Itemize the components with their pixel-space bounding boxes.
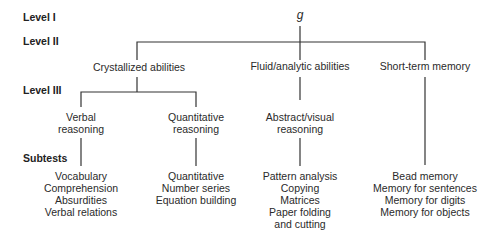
- subtest-item: Comprehension: [44, 182, 118, 194]
- quantitative-reasoning-node: Quantitative reasoning: [168, 111, 224, 135]
- short-term-memory-subtests-list: Bead memory Memory for sentences Memory …: [373, 170, 477, 218]
- subtest-item: Bead memory: [373, 170, 477, 182]
- verbal-reasoning-node: Verbal reasoning: [58, 111, 104, 135]
- abstract-visual-subtests-list: Pattern analysis Copying Matrices Paper …: [263, 170, 338, 230]
- subtest-item: Memory for sentences: [373, 182, 477, 194]
- subtest-item: Pattern analysis: [263, 170, 338, 182]
- fluid-analytic-abilities-node: Fluid/analytic abilities: [250, 60, 349, 72]
- subtest-item: Equation building: [156, 194, 237, 206]
- level-2-label: Level II: [23, 35, 59, 47]
- crystallized-abilities-node: Crystallized abilities: [93, 61, 185, 73]
- subtest-item: and cutting: [263, 218, 338, 230]
- verbal-reasoning-line1: Verbal: [58, 111, 104, 123]
- short-term-memory-node: Short-term memory: [380, 60, 470, 72]
- subtest-item: Memory for digits: [373, 194, 477, 206]
- subtest-item: Absurdities: [44, 194, 118, 206]
- abstract-visual-reasoning-line2: reasoning: [266, 123, 334, 135]
- quantitative-reasoning-line2: reasoning: [168, 123, 224, 135]
- subtest-item: Memory for objects: [373, 206, 477, 218]
- quantitative-subtests-list: Quantitative Number series Equation buil…: [156, 170, 237, 206]
- level-1-label: Level I: [23, 11, 56, 23]
- subtests-label: Subtests: [23, 152, 67, 164]
- g-node: g: [297, 8, 304, 22]
- verbal-subtests-list: Vocabulary Comprehension Absurdities Ver…: [44, 170, 118, 218]
- subtest-item: Verbal relations: [44, 206, 118, 218]
- abstract-visual-reasoning-line1: Abstract/visual: [266, 111, 334, 123]
- verbal-reasoning-line2: reasoning: [58, 123, 104, 135]
- subtest-item: Matrices: [263, 194, 338, 206]
- quantitative-reasoning-line1: Quantitative: [168, 111, 224, 123]
- subtest-item: Quantitative: [156, 170, 237, 182]
- subtest-item: Number series: [156, 182, 237, 194]
- level-3-label: Level III: [23, 84, 62, 96]
- subtest-item: Paper folding: [263, 206, 338, 218]
- abstract-visual-reasoning-node: Abstract/visual reasoning: [266, 111, 334, 135]
- subtest-item: Copying: [263, 182, 338, 194]
- subtest-item: Vocabulary: [44, 170, 118, 182]
